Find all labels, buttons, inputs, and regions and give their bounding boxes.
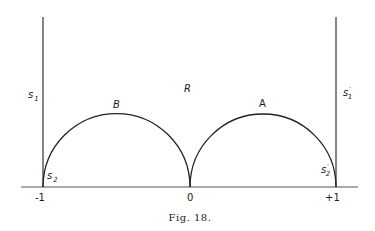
label-s1-prime: s′1 — [343, 86, 352, 101]
tick-label-minus-one: -1 — [35, 192, 45, 203]
tick-label-zero: 0 — [187, 192, 193, 203]
figure-caption: Fig. 18. — [169, 212, 212, 223]
label-s2: s2 — [47, 170, 58, 184]
tick-label-plus-one: +1 — [325, 192, 340, 203]
label-s1: s1 — [28, 89, 39, 103]
region-label-r: R — [184, 83, 191, 94]
arc-a — [190, 114, 336, 187]
label-s2-prime: s′2 — [321, 163, 331, 178]
fundamental-region-diagram: R B A s1 s2 s′1 s′2 -1 0 +1 Fig. 18. — [0, 0, 375, 231]
arc-label-a: A — [259, 98, 266, 109]
arc-b — [43, 114, 190, 187]
arc-label-b: B — [113, 99, 120, 110]
